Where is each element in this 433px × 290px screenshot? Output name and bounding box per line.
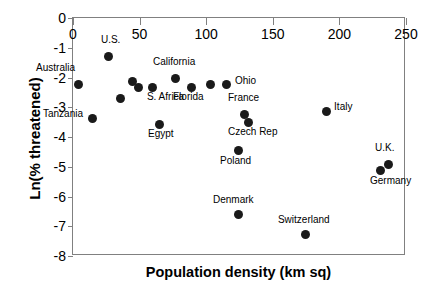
y-tick-mark bbox=[68, 167, 73, 168]
data-point-label: California bbox=[153, 56, 195, 67]
x-tick-label: 0 bbox=[69, 26, 77, 42]
scatter-plot-figure: Ln(% threatened) 0-1-2-3-4-5-6-7-8 05010… bbox=[0, 0, 433, 290]
x-tick-label: 200 bbox=[328, 26, 351, 42]
data-point[interactable] bbox=[222, 80, 231, 89]
data-point[interactable] bbox=[104, 52, 113, 61]
data-point-label: Australia bbox=[36, 62, 75, 73]
data-point[interactable] bbox=[234, 210, 243, 219]
data-point[interactable] bbox=[171, 74, 180, 83]
y-tick-mark bbox=[68, 256, 73, 257]
data-point-label: Switzerland bbox=[278, 214, 330, 225]
data-point-label: Tanzania bbox=[43, 108, 83, 119]
y-tick-label: -5 bbox=[54, 159, 66, 175]
y-tick-label: -1 bbox=[54, 40, 66, 56]
data-point-label: Denmark bbox=[213, 194, 254, 205]
x-tick-mark bbox=[406, 18, 407, 25]
y-tick-mark bbox=[68, 226, 73, 227]
data-point-label: U.K. bbox=[375, 142, 394, 153]
x-tick-label: 250 bbox=[394, 26, 417, 42]
data-point[interactable] bbox=[384, 160, 393, 169]
x-tick-mark bbox=[339, 18, 340, 25]
data-point[interactable] bbox=[134, 83, 143, 92]
data-point[interactable] bbox=[88, 114, 97, 123]
y-tick-label: 0 bbox=[58, 10, 66, 26]
y-tick-label: -7 bbox=[54, 218, 66, 234]
data-point-label: Egypt bbox=[148, 128, 174, 139]
y-tick-mark bbox=[68, 48, 73, 49]
x-axis-title: Population density (km sq) bbox=[72, 264, 405, 280]
x-tick-mark bbox=[73, 18, 74, 25]
data-point[interactable] bbox=[206, 80, 215, 89]
data-point[interactable] bbox=[74, 80, 83, 89]
y-tick-label: -4 bbox=[54, 129, 66, 145]
data-point-label: Poland bbox=[220, 155, 251, 166]
data-point[interactable] bbox=[301, 230, 310, 239]
data-point[interactable] bbox=[148, 83, 157, 92]
data-point-label: Germany bbox=[370, 175, 411, 186]
data-point[interactable] bbox=[322, 107, 331, 116]
data-point-label: Italy bbox=[334, 101, 352, 112]
y-tick-label: -6 bbox=[54, 189, 66, 205]
x-tick-label: 100 bbox=[195, 26, 218, 42]
data-point-label: Florida bbox=[173, 91, 204, 102]
x-tick-label: 50 bbox=[132, 26, 148, 42]
data-point-label: Czech Rep bbox=[228, 126, 277, 137]
y-tick-mark bbox=[68, 137, 73, 138]
x-tick-mark bbox=[140, 18, 141, 25]
x-tick-mark bbox=[206, 18, 207, 25]
x-tick-label: 150 bbox=[261, 26, 284, 42]
data-point-label: U.S. bbox=[101, 34, 120, 45]
data-point[interactable] bbox=[116, 94, 125, 103]
plot-area: 0-1-2-3-4-5-6-7-8 050100150200250 Austra… bbox=[72, 17, 405, 255]
y-tick-label: -8 bbox=[54, 248, 66, 264]
data-point[interactable] bbox=[376, 166, 385, 175]
y-tick-mark bbox=[68, 197, 73, 198]
data-point-label: Ohio bbox=[235, 75, 256, 86]
x-tick-mark bbox=[273, 18, 274, 25]
data-point-label: France bbox=[228, 92, 259, 103]
y-tick-mark bbox=[68, 78, 73, 79]
